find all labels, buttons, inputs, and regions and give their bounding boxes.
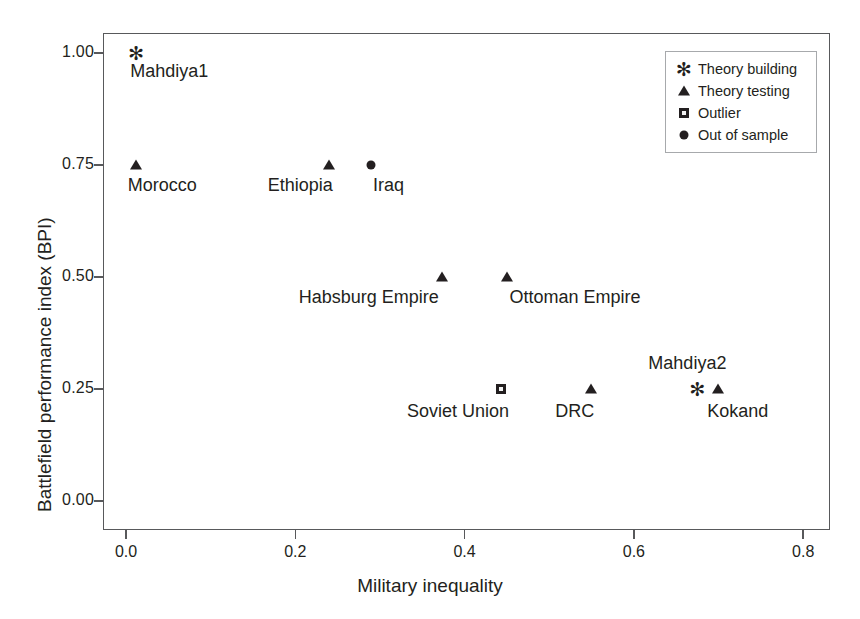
- x-tick-label: 0.6: [604, 543, 664, 561]
- legend-item: Theory testing: [675, 81, 807, 100]
- triangle-icon: [585, 384, 597, 394]
- square-icon: [679, 108, 689, 118]
- legend-label: Theory building: [698, 61, 797, 77]
- circle-icon: [367, 161, 376, 170]
- legend-marker: [675, 127, 693, 143]
- triangle-icon: [678, 85, 690, 95]
- x-tick-mark: [633, 530, 635, 539]
- y-tick-mark: [94, 500, 103, 502]
- data-point-label: Habsburg Empire: [299, 287, 439, 308]
- data-point-label: Morocco: [128, 175, 197, 196]
- y-tick-label: 0.00: [62, 491, 94, 509]
- data-point-label: Ethiopia: [268, 175, 333, 196]
- data-point-label: Ottoman Empire: [509, 287, 640, 308]
- y-tick-mark: [94, 276, 103, 278]
- data-point-label: DRC: [555, 401, 594, 422]
- y-tick-mark: [94, 388, 103, 390]
- triangle-icon: [436, 272, 448, 282]
- data-point-label: Mahdiya2: [648, 353, 726, 374]
- legend-label: Outlier: [698, 105, 741, 121]
- y-tick-mark: [94, 52, 103, 54]
- legend-marker: [675, 83, 693, 99]
- legend-marker: [675, 105, 693, 121]
- y-axis-title: Battlefield performance index (BPI): [34, 217, 56, 512]
- legend-marker: ✻: [675, 61, 693, 77]
- y-tick-label: 0.25: [62, 379, 94, 397]
- data-point-label: Mahdiya1: [130, 61, 208, 82]
- data-point-label: Kokand: [707, 401, 768, 422]
- data-point-label: Soviet Union: [407, 401, 509, 422]
- x-tick-mark: [464, 530, 466, 539]
- triangle-icon: [323, 160, 335, 170]
- legend-label: Theory testing: [698, 83, 790, 99]
- x-tick-label: 0.0: [96, 543, 156, 561]
- triangle-icon: [501, 272, 513, 282]
- data-point-label: Iraq: [373, 175, 404, 196]
- x-tick-mark: [802, 530, 804, 539]
- y-tick-mark: [94, 164, 103, 166]
- triangle-icon: [712, 384, 724, 394]
- y-tick-label: 1.00: [62, 43, 94, 61]
- x-tick-mark: [125, 530, 127, 539]
- circle-icon: [680, 130, 689, 139]
- x-tick-mark: [295, 530, 297, 539]
- legend-item: ✻Theory building: [675, 59, 807, 78]
- x-axis-title: Military inequality: [0, 575, 860, 597]
- x-tick-label: 0.2: [265, 543, 325, 561]
- legend-label: Out of sample: [698, 127, 788, 143]
- y-tick-label: 0.50: [62, 267, 94, 285]
- x-tick-label: 0.4: [435, 543, 495, 561]
- y-tick-label: 0.75: [62, 155, 94, 173]
- scatter-plot-figure: Battlefield performance index (BPI) 0.00…: [0, 0, 860, 619]
- legend-item: Outlier: [675, 103, 807, 122]
- legend-item: Out of sample: [675, 125, 807, 144]
- square-icon: [496, 384, 506, 394]
- x-tick-label: 0.8: [773, 543, 833, 561]
- triangle-icon: [130, 160, 142, 170]
- chart-legend: ✻Theory buildingTheory testingOutlierOut…: [665, 51, 817, 153]
